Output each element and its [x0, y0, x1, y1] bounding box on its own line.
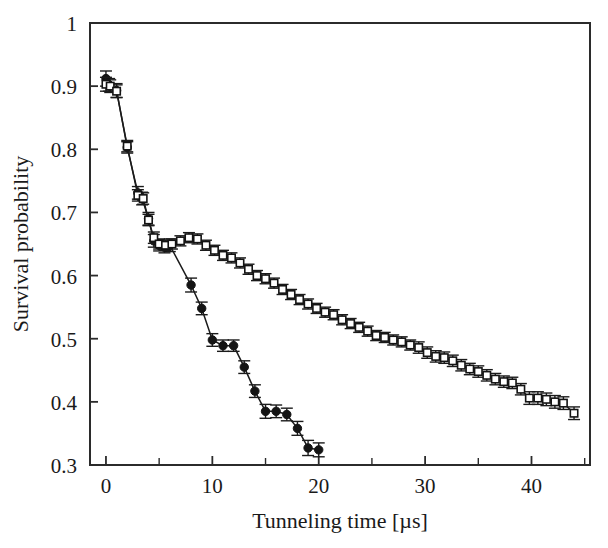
data-point [261, 407, 269, 415]
data-point [315, 446, 323, 454]
data-point [570, 410, 577, 417]
data-point [245, 266, 252, 273]
data-point [389, 336, 396, 343]
data-point [551, 398, 558, 405]
data-point [500, 378, 507, 385]
data-point [543, 396, 550, 403]
y-tick-label: 0.8 [51, 138, 77, 162]
series-open-squares [100, 77, 580, 419]
data-point [177, 237, 184, 244]
y-tick-label: 1 [67, 12, 78, 36]
y-tick-label: 0.7 [51, 201, 77, 225]
data-point [272, 407, 280, 415]
data-point [168, 240, 175, 247]
data-point [185, 234, 192, 241]
data-point [145, 216, 152, 223]
data-point [355, 324, 362, 331]
x-tick-label: 20 [308, 474, 329, 498]
data-point [251, 387, 259, 395]
series-line [106, 79, 319, 450]
data-point [202, 242, 209, 249]
data-point [240, 363, 248, 371]
y-tick-label: 0.5 [51, 328, 77, 352]
x-tick-label: 0 [101, 474, 112, 498]
y-axis-ticks: 0.30.40.50.60.70.80.91 [51, 12, 100, 478]
data-point [253, 272, 260, 279]
data-point [236, 259, 243, 266]
data-point [560, 399, 567, 406]
data-point [187, 281, 195, 289]
x-tick-label: 30 [415, 474, 436, 498]
data-point [483, 372, 490, 379]
x-axis-ticks: 010203040 [101, 456, 585, 498]
data-point [219, 252, 226, 259]
data-point [313, 305, 320, 312]
data-point [415, 344, 422, 351]
data-point [124, 142, 131, 149]
data-point [287, 291, 294, 298]
data-point [228, 254, 235, 261]
data-point [208, 336, 216, 344]
data-point [517, 386, 524, 393]
data-point [364, 327, 371, 334]
y-tick-label: 0.9 [51, 75, 77, 99]
data-point [296, 296, 303, 303]
data-point [509, 379, 516, 386]
data-point [194, 235, 201, 242]
data-point [304, 300, 311, 307]
data-point [211, 247, 218, 254]
data-point [449, 357, 456, 364]
data-point [398, 338, 405, 345]
data-point [407, 341, 414, 348]
y-tick-label: 0.3 [51, 454, 77, 478]
data-point [347, 320, 354, 327]
data-point [219, 341, 227, 349]
data-point [279, 286, 286, 293]
data-point [338, 316, 345, 323]
y-tick-label: 0.4 [51, 391, 78, 415]
data-point [424, 349, 431, 356]
data-point [432, 353, 439, 360]
x-axis-title: Tunneling time [µs] [252, 508, 428, 533]
y-axis-title: Survival probability [8, 156, 33, 333]
data-point [139, 195, 146, 202]
data-point [492, 375, 499, 382]
data-point [304, 444, 312, 452]
data-point [270, 279, 277, 286]
data-point [262, 275, 269, 282]
figure-container: 0102030400.30.40.50.60.70.80.91Tunneling… [0, 0, 608, 548]
data-point [229, 341, 237, 349]
data-point [293, 424, 301, 432]
data-point [466, 365, 473, 372]
data-point [198, 304, 206, 312]
x-tick-label: 10 [202, 474, 223, 498]
chart-plot: 0102030400.30.40.50.60.70.80.91Tunneling… [0, 0, 608, 548]
y-tick-label: 0.6 [51, 265, 77, 289]
data-point [534, 394, 541, 401]
data-point [283, 410, 291, 418]
x-tick-label: 40 [521, 474, 542, 498]
data-point [113, 87, 120, 94]
data-point [372, 332, 379, 339]
data-point [526, 394, 533, 401]
series-filled-circles [100, 71, 325, 457]
data-point [458, 362, 465, 369]
data-point [441, 354, 448, 361]
data-point [381, 334, 388, 341]
data-point [330, 311, 337, 318]
data-point [321, 308, 328, 315]
data-point [475, 368, 482, 375]
